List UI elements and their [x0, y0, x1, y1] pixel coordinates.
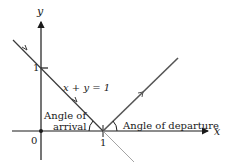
- reflection-diagram: y x 0 1 1 x + y = 1 Angle of arrival Ang…: [0, 0, 228, 166]
- y-tick-label: 1: [33, 63, 39, 73]
- x-tick-label: 1: [100, 138, 106, 148]
- departure-label: Angle of departure: [123, 121, 219, 131]
- departure-angle-arc: [113, 121, 117, 131]
- arrival-label-line2: arrival: [53, 122, 87, 132]
- arrival-angle-arc: [89, 121, 93, 131]
- origin-label: 0: [31, 136, 37, 146]
- line-equation-label: x + y = 1: [63, 83, 110, 93]
- arrival-label-line1: Angle of: [44, 111, 86, 121]
- y-axis-label: y: [37, 6, 43, 17]
- incident-extension: [103, 131, 134, 162]
- origin-point: [39, 129, 43, 133]
